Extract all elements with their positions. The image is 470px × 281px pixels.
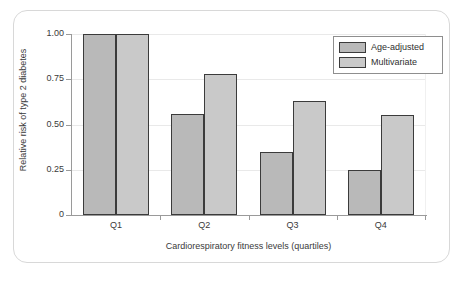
bar bbox=[204, 74, 237, 215]
y-axis-tick-label: 0 bbox=[28, 210, 64, 219]
legend-item-age-adjusted: Age-adjusted bbox=[339, 41, 438, 54]
y-axis-tick-label: 0.75 bbox=[28, 74, 64, 83]
x-axis-tick bbox=[425, 215, 426, 220]
legend-swatch-age-adjusted bbox=[339, 42, 366, 53]
x-axis-category-label: Q3 bbox=[273, 221, 313, 230]
bar bbox=[260, 152, 293, 215]
legend-label-multivariate: Multivariate bbox=[371, 58, 417, 67]
x-axis-title: Cardiorespiratory fitness levels (quarti… bbox=[72, 241, 425, 251]
legend-item-multivariate: Multivariate bbox=[339, 56, 438, 69]
x-axis-category-label: Q1 bbox=[96, 221, 136, 230]
chart-screenshot: Relative risk of type 2 diabetes 00.250.… bbox=[0, 0, 470, 281]
x-axis-category-label: Q4 bbox=[361, 221, 401, 230]
y-axis-title: Relative risk of type 2 diabetes bbox=[18, 40, 28, 180]
x-axis-tick bbox=[337, 215, 338, 220]
bar bbox=[293, 101, 326, 215]
legend-label-age-adjusted: Age-adjusted bbox=[371, 43, 424, 52]
x-axis-tick bbox=[249, 215, 250, 220]
chart-legend: Age-adjusted Multivariate bbox=[333, 36, 443, 74]
x-axis-category-label: Q2 bbox=[184, 221, 224, 230]
bar bbox=[381, 115, 414, 215]
bar bbox=[171, 114, 204, 215]
y-axis-tick-label: 0.50 bbox=[28, 120, 64, 129]
x-axis-tick bbox=[160, 215, 161, 220]
y-axis-tick-label: 1.00 bbox=[28, 29, 64, 38]
bar bbox=[83, 34, 116, 215]
y-axis-tick-label: 0.25 bbox=[28, 165, 64, 174]
bar bbox=[348, 170, 381, 215]
legend-swatch-multivariate bbox=[339, 57, 366, 68]
bar bbox=[116, 34, 149, 215]
